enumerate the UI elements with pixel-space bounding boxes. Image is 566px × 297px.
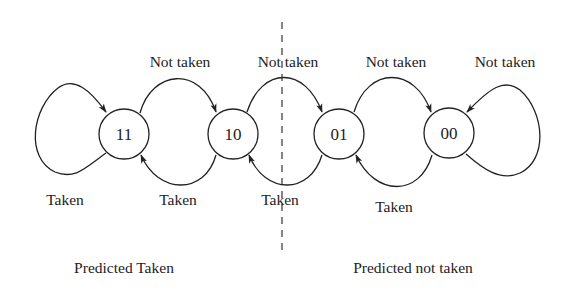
region-label-predicted-not-taken: Predicted not taken <box>353 259 473 276</box>
label-10-to-11-taken: Taken <box>159 191 197 208</box>
label-10-to-01-not-taken: Not taken <box>258 53 319 70</box>
transition-01-to-00-not-taken <box>354 78 431 113</box>
state-label: 10 <box>225 125 242 144</box>
label-00-to-01-taken: Taken <box>375 198 413 215</box>
state-label: 00 <box>441 124 458 143</box>
transition-10-to-11-taken <box>141 155 216 185</box>
state-node-01: 01 <box>314 109 364 159</box>
transition-10-to-01-not-taken <box>247 78 322 113</box>
label-01-to-10-taken: Taken <box>261 191 299 208</box>
label-11-self-taken: Taken <box>46 191 84 208</box>
transition-01-to-10-taken <box>249 155 322 185</box>
transition-11-to-10-not-taken <box>140 79 216 113</box>
label-11-to-10-not-taken: Not taken <box>150 53 211 70</box>
label-01-to-00-not-taken: Not taken <box>366 53 427 70</box>
label-00-self-not-taken: Not taken <box>475 53 536 70</box>
branch-predictor-state-diagram: 11 10 01 00 Taken Not taken Taken Not ta… <box>0 0 566 297</box>
state-node-00: 00 <box>424 108 474 158</box>
transition-11-self-taken <box>35 84 106 175</box>
transition-00-self-not-taken <box>466 85 540 176</box>
state-node-10: 10 <box>208 109 258 159</box>
transition-00-to-01-taken <box>356 155 432 187</box>
region-label-predicted-taken: Predicted Taken <box>74 259 174 276</box>
state-label: 01 <box>331 125 348 144</box>
state-node-11: 11 <box>99 109 149 159</box>
state-label: 11 <box>116 125 132 144</box>
